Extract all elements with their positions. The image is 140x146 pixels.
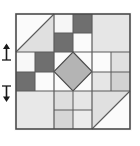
edge-marker-layer — [0, 0, 14, 146]
unit-top-right — [92, 14, 130, 52]
unit-top-center-patch-4 — [73, 33, 92, 52]
unit-bottom-center-patch-1 — [54, 91, 73, 110]
unit-middle-center — [54, 52, 92, 91]
arrow-marker-lower — [2, 86, 11, 102]
unit-bottom-center — [54, 91, 92, 129]
unit-middle-right-patch-3 — [92, 72, 111, 91]
arrow-marker-lower-head — [3, 97, 10, 103]
quilt-block-svg — [14, 12, 132, 131]
unit-bottom-center-patch-4 — [73, 110, 92, 129]
unit-bottom-center-patch-3 — [54, 110, 73, 129]
unit-bottom-center-patch-2 — [73, 91, 92, 110]
arrow-marker-upper — [2, 44, 11, 61]
unit-middle-left-patch-4 — [35, 72, 54, 91]
unit-top-right-square — [92, 14, 130, 52]
unit-top-center-patch-2 — [73, 14, 92, 33]
unit-bottom-left-square — [16, 91, 54, 129]
unit-middle-right-patch-2 — [111, 52, 130, 72]
edge-marker-svg — [0, 0, 14, 146]
quilt-block-figure — [14, 12, 132, 131]
unit-top-center-patch-3 — [54, 33, 73, 52]
unit-middle-left-patch-2 — [35, 52, 54, 72]
arrow-marker-upper-head — [3, 44, 10, 50]
unit-top-left — [16, 14, 54, 52]
figure-canvas — [0, 0, 140, 146]
unit-middle-left — [16, 52, 54, 91]
unit-top-center-patch-1 — [54, 14, 73, 33]
unit-middle-left-patch-1 — [16, 52, 35, 72]
unit-bottom-right — [92, 91, 130, 129]
unit-middle-left-patch-3 — [16, 72, 35, 91]
unit-bottom-left — [16, 91, 54, 129]
unit-middle-right-patch-1 — [92, 52, 111, 72]
unit-middle-right — [92, 52, 130, 91]
unit-top-center — [54, 14, 92, 52]
unit-middle-right-patch-4 — [111, 72, 130, 91]
